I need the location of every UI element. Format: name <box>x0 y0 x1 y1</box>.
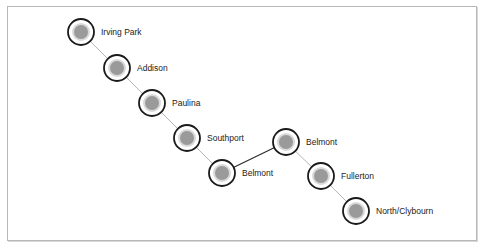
station-dot-icon <box>349 204 363 218</box>
station-dot-icon <box>145 96 159 110</box>
nodes-layer: Irving ParkAddisonPaulinaSouthportBelmon… <box>68 19 433 224</box>
station-label: Belmont <box>306 137 338 147</box>
station-node-addison: Addison <box>104 55 168 81</box>
station-node-north-clybourn: North/Clybourn <box>343 198 433 224</box>
station-label: North/Clybourn <box>376 206 433 216</box>
station-dot-icon <box>74 25 88 39</box>
station-dot-icon <box>279 135 293 149</box>
station-node-irving-park: Irving Park <box>68 19 142 45</box>
station-node-paulina: Paulina <box>139 90 201 116</box>
station-label: Belmont <box>242 168 274 178</box>
station-label: Irving Park <box>101 27 142 37</box>
station-label: Fullerton <box>341 171 374 181</box>
station-node-southport: Southport <box>174 125 244 151</box>
station-dot-icon <box>180 131 194 145</box>
station-node-belmont-2: Belmont <box>273 129 338 155</box>
station-dot-icon <box>215 166 229 180</box>
station-label: Southport <box>207 133 244 143</box>
station-node-fullerton: Fullerton <box>308 163 374 189</box>
station-label: Addison <box>137 63 168 73</box>
station-dot-icon <box>314 169 328 183</box>
station-dot-icon <box>110 61 124 75</box>
transit-diagram: Irving ParkAddisonPaulinaSouthportBelmon… <box>0 0 483 246</box>
station-label: Paulina <box>172 98 201 108</box>
